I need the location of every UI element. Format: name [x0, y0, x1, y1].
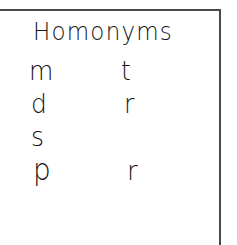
list-item: m t — [0, 56, 219, 89]
worksheet-page: Homonyms m t d r s p r — [0, 0, 237, 245]
list-item: s — [0, 122, 219, 155]
list-item-right-letter: r — [127, 155, 138, 187]
list-item: d r — [0, 89, 219, 122]
page-title: Homonyms — [33, 17, 173, 47]
list-item-left-letter: s — [31, 122, 44, 154]
right-rule-line — [219, 9, 221, 245]
homonym-list: m t d r s p r — [0, 56, 219, 200]
list-item-right-letter: t — [121, 56, 131, 88]
list-item-left-letter: d — [31, 89, 47, 121]
list-item-left-letter: m — [29, 56, 53, 88]
list-item: p r — [0, 155, 219, 200]
list-item-right-letter: r — [124, 89, 134, 121]
list-item-left-letter: p — [33, 155, 51, 187]
top-rule-line — [0, 9, 221, 11]
